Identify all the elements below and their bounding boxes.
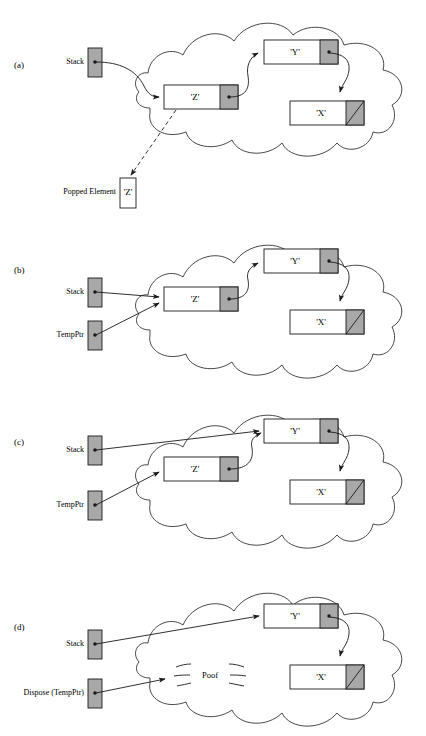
node-Y-a: 'Y': [264, 40, 338, 64]
node-Z-label: 'Z': [191, 294, 200, 304]
stack-variable-label: Stack: [66, 287, 84, 296]
node-X-d: 'X': [290, 665, 364, 689]
panel-d-label: (d): [14, 622, 25, 632]
node-X-b: 'X': [290, 310, 364, 334]
stack-pop-diagram: (a) 'Z' 'Y' 'X' Stack: [0, 0, 426, 736]
node-X-label: 'X': [316, 317, 326, 327]
node-Z-b: 'Z': [164, 287, 238, 311]
node-Y-c: 'Y': [264, 419, 338, 443]
node-Y-b: 'Y': [264, 249, 338, 273]
popped-element-value: 'Z': [124, 187, 133, 197]
node-Z-c: 'Z': [164, 457, 238, 481]
panel-b-label: (b): [14, 265, 25, 275]
node-Z-label: 'Z': [191, 464, 200, 474]
dispose-variable-label: Dispose (TempPtr): [23, 688, 84, 697]
node-Y-label: 'Y': [290, 611, 300, 621]
tempptr-variable-label: TempPtr: [57, 500, 85, 509]
node-X-label: 'X': [316, 108, 326, 118]
node-Y-label: 'Y': [290, 426, 300, 436]
stack-variable-label: Stack: [66, 639, 84, 648]
stack-variable-label: Stack: [66, 445, 84, 454]
node-Z-label: 'Z': [191, 92, 200, 102]
node-X-label: 'X': [316, 487, 326, 497]
node-X-label: 'X': [316, 672, 326, 682]
node-X-c: 'X': [290, 480, 364, 504]
tempptr-variable-label: TempPtr: [57, 330, 85, 339]
node-Y-label: 'Y': [290, 256, 300, 266]
node-X-a: 'X': [290, 101, 364, 125]
popped-element-label: Popped Element: [63, 187, 116, 196]
poof-label: Poof: [202, 670, 218, 680]
panel-a-label: (a): [14, 60, 24, 70]
node-Z-a: 'Z': [164, 85, 238, 109]
node-Y-label: 'Y': [290, 47, 300, 57]
panel-c-label: (c): [14, 437, 24, 447]
node-Y-d: 'Y': [264, 604, 338, 628]
stack-variable-label: Stack: [66, 57, 84, 66]
